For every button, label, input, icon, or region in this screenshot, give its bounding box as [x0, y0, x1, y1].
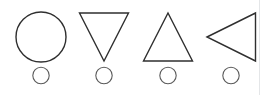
radio-triangle-down[interactable]	[72, 66, 136, 88]
shape-option-label-triangle-down: Triangle Down	[72, 0, 73, 1]
circle-outline-icon[interactable]	[9, 8, 73, 66]
triangle-down-outline-icon[interactable]	[72, 8, 136, 66]
shape-option-triangle-down[interactable]: Triangle Down	[72, 0, 136, 95]
shape-option-triangle-up[interactable]: Triangle Up	[136, 0, 200, 95]
shape-selector-panel: Circle Triangle Down	[0, 0, 260, 95]
shape-option-label-triangle-left: Triangle Left	[199, 0, 200, 1]
shape-option-label-circle: Circle	[9, 0, 10, 1]
radio-triangle-up[interactable]	[136, 66, 200, 88]
shape-option-label-triangle-up: Triangle Up	[136, 0, 137, 1]
shape-option-row: Circle Triangle Down	[0, 0, 260, 95]
radio-circle[interactable]	[9, 66, 73, 88]
shape-option-triangle-left[interactable]: Triangle Left	[199, 0, 260, 95]
radio-triangle-left[interactable]	[199, 66, 260, 88]
triangle-up-outline-icon[interactable]	[136, 8, 200, 66]
shape-option-circle[interactable]: Circle	[9, 0, 73, 95]
panel-right-border	[259, 0, 260, 95]
triangle-left-outline-icon[interactable]	[199, 8, 260, 66]
